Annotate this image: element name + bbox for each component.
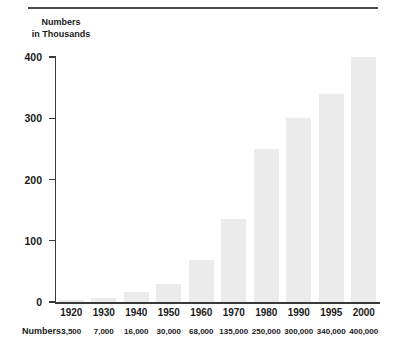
y-axis-tick-label: 400 <box>0 51 42 63</box>
bar <box>124 292 149 302</box>
bar <box>156 284 181 302</box>
bar <box>351 57 376 302</box>
top-divider-rule <box>28 7 378 9</box>
bar <box>189 260 214 302</box>
y-axis-title-line-2: in Thousands <box>18 29 104 41</box>
bar <box>59 300 84 302</box>
bar <box>91 298 116 302</box>
value-row: Numbers: 3,5007,00016,00030,00068,000135… <box>0 326 393 342</box>
x-axis-label-group: 1920193019401950196019701980199019952000 <box>0 307 393 323</box>
x-axis-line <box>55 302 380 304</box>
bar <box>319 94 344 302</box>
bar <box>221 219 246 302</box>
y-axis-title-line-1: Numbers <box>18 17 104 29</box>
y-axis-tick-label: 100 <box>0 235 42 247</box>
value-cell: 400,000 <box>343 327 385 336</box>
bar <box>254 149 279 302</box>
y-axis-title: Numbers in Thousands <box>18 17 104 40</box>
y-axis-tick-label: 200 <box>0 174 42 186</box>
bar <box>286 118 311 302</box>
x-axis-label: 2000 <box>344 307 384 318</box>
chart-plot-area <box>55 57 380 302</box>
y-axis-tick-label: 300 <box>0 112 42 124</box>
